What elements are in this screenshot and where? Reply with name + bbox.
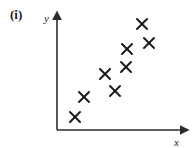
- scatter-plot-figure: (i) y x: [0, 0, 193, 148]
- data-point-marker: [137, 19, 147, 29]
- data-point-marker: [121, 62, 131, 72]
- y-axis-label: y: [43, 12, 49, 24]
- axes-group: [57, 20, 180, 130]
- scatter-plot-canvas: y x: [0, 0, 193, 148]
- data-point-marker: [100, 69, 110, 79]
- data-point-marker: [122, 44, 132, 54]
- x-axis-label: x: [173, 136, 179, 148]
- data-point-marker: [70, 112, 80, 122]
- data-point-marker: [144, 38, 154, 48]
- data-point-marker: [79, 92, 89, 102]
- data-point-marker: [110, 86, 120, 96]
- data-point-group: [70, 19, 154, 122]
